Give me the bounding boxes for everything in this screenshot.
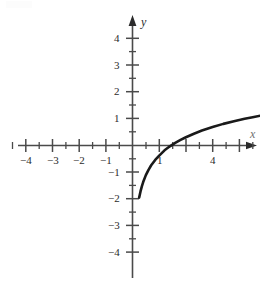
- x-tick-label-neg1: −1: [100, 155, 112, 166]
- y-tick-label-neg4: −4: [108, 247, 120, 258]
- y-axis-arrowhead: [129, 15, 137, 26]
- x-tick-label-4: 4: [210, 155, 216, 166]
- x-tick-label-neg4: −4: [20, 155, 32, 166]
- y-tick-label-4: 4: [114, 33, 120, 44]
- x-axis-arrowhead: [246, 142, 257, 149]
- y-tick-label-neg1: −1: [108, 167, 120, 178]
- x-tick-label-neg2: −2: [73, 155, 85, 166]
- y-tick-label-3: 3: [114, 60, 120, 71]
- graph-figure: −4 −3 −2 −1 1 4 4 3 2 1 −1 −2 −3 −4 y x: [0, 0, 260, 290]
- cartesian-plot: [0, 0, 260, 290]
- y-tick-label-1: 1: [114, 113, 120, 124]
- x-axis-label: x: [250, 128, 255, 140]
- y-tick-label-neg3: −3: [108, 220, 120, 231]
- y-tick-label-2: 2: [114, 86, 120, 97]
- y-tick-label-neg2: −2: [108, 193, 120, 204]
- y-axis-label: y: [141, 16, 146, 28]
- x-tick-label-1: 1: [157, 155, 163, 166]
- axes-group: [18, 15, 257, 278]
- x-tick-label-neg3: −3: [47, 155, 59, 166]
